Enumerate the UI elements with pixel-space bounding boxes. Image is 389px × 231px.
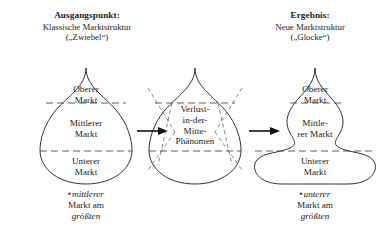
right-heading-subtitle2: („Glocke“) (225, 33, 389, 43)
center-line2: in-der- (140, 115, 250, 126)
bell-middle-line2: rer Markt (265, 129, 365, 140)
left-caption-emphasis: mittlerer (72, 189, 104, 199)
center-line4: Phänomen (140, 136, 250, 147)
left-heading-block: Ausgangspunkt: Klassische Marktstruktur … (2, 10, 172, 43)
onion-lower-market-label: Unterer Markt (36, 156, 136, 178)
left-caption-line1: ▪mittlerer (26, 189, 146, 200)
right-caption-emphasis: unterer (304, 189, 331, 199)
right-caption-block: ▪unterer Markt am größten (255, 189, 375, 222)
left-caption-line3: größten (26, 211, 146, 222)
market-structure-diagram: Ausgangspunkt: Klassische Marktstruktur … (0, 0, 389, 231)
left-heading-subtitle2: („Zwiebel“) (2, 33, 172, 43)
bell-lower-market-label: Unterer Markt (265, 156, 365, 178)
onion-lower-line2: Markt (36, 167, 136, 178)
bell-middle-market-label: Mittle- rer Markt (265, 118, 365, 140)
right-caption-line1: ▪unterer (255, 189, 375, 200)
left-caption-line2: Markt am (26, 200, 146, 211)
onion-lower-line1: Unterer (36, 156, 136, 167)
center-phenomenon-label: Verlust- in-der- Mitte- Phänomen (140, 104, 250, 147)
left-caption-block: ▪mittlerer Markt am größten (26, 189, 146, 222)
onion-middle-line1: Mittlerer (36, 118, 136, 129)
right-caption-line2: Markt am (255, 200, 375, 211)
onion-upper-market-label: Oberer Markt (36, 84, 136, 106)
right-heading-block: Ergebnis: Neue Marktstruktur („Glocke“) (225, 10, 389, 43)
bell-lower-line1: Unterer (265, 156, 365, 167)
center-line3: Mitte- (140, 126, 250, 137)
onion-upper-line2: Markt (36, 95, 136, 106)
left-heading-title: Ausgangspunkt: (2, 10, 172, 20)
onion-middle-line2: Markt (36, 129, 136, 140)
right-caption-line3: größten (255, 211, 375, 222)
center-line1: Verlust- (140, 104, 250, 115)
bell-lower-line2: Markt (265, 167, 365, 178)
bell-upper-market-label: Oberer Markt (265, 84, 365, 106)
onion-middle-market-label: Mittlerer Markt (36, 118, 136, 140)
bell-middle-line1: Mittle- (265, 118, 365, 129)
onion-upper-line1: Oberer (36, 84, 136, 95)
bell-upper-line2: Markt (265, 95, 365, 106)
right-caption-bullet: ▪ (300, 189, 303, 198)
left-caption-bullet: ▪ (68, 189, 71, 198)
bell-upper-line1: Oberer (265, 84, 365, 95)
right-heading-title: Ergebnis: (225, 10, 389, 20)
